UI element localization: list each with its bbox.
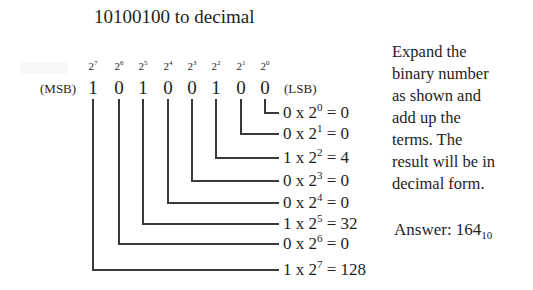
- answer-label: Answer:: [394, 220, 452, 239]
- expansion-term: 1 x 25 = 32: [283, 212, 358, 234]
- bit-digit: 0: [255, 77, 275, 99]
- bit-digit: 0: [158, 77, 178, 99]
- bit-digit: 1: [206, 77, 226, 99]
- connector-horizontal: [191, 180, 279, 182]
- answer: Answer: 16410: [394, 220, 492, 241]
- connector-horizontal: [240, 133, 279, 135]
- explanation-line: decimal form.: [392, 173, 532, 195]
- connector-horizontal: [215, 157, 279, 159]
- connector-vertical: [264, 99, 266, 113]
- connector-horizontal: [142, 223, 279, 225]
- expansion-term: 1 x 22 = 4: [283, 146, 349, 168]
- lsb-label: (LSB): [284, 81, 317, 97]
- power-label: 20: [255, 60, 275, 72]
- faint-smudge: [20, 62, 68, 74]
- explanation-text: Expand thebinary numberas shown andadd u…: [392, 41, 532, 195]
- connector-vertical: [240, 99, 242, 134]
- expansion-term: 0 x 24 = 0: [283, 191, 349, 213]
- expansion-term: 0 x 23 = 0: [283, 169, 349, 191]
- expansion-term: 0 x 21 = 0: [283, 122, 349, 144]
- connector-vertical: [167, 99, 169, 203]
- connector-vertical: [142, 99, 144, 224]
- connector-horizontal: [167, 202, 279, 204]
- explanation-line: result will be in: [392, 151, 532, 173]
- explanation-line: terms. The: [392, 129, 532, 151]
- power-label: 21: [231, 60, 251, 72]
- power-label: 22: [206, 60, 226, 72]
- bit-digit: 0: [109, 77, 129, 99]
- diagram-title: 10100100 to decimal: [94, 6, 254, 28]
- connector-vertical: [118, 99, 120, 244]
- explanation-line: binary number: [392, 63, 532, 85]
- bit-digit: 1: [83, 77, 103, 99]
- connector-horizontal: [264, 112, 279, 114]
- connector-vertical: [92, 99, 94, 270]
- answer-value: 164: [456, 220, 482, 239]
- msb-label: (MSB): [40, 81, 76, 97]
- expansion-term: 0 x 26 = 0: [283, 232, 349, 254]
- power-label: 25: [133, 60, 153, 72]
- connector-vertical: [215, 99, 217, 158]
- explanation-line: Expand the: [392, 41, 532, 63]
- power-label: 27: [83, 60, 103, 72]
- power-label: 24: [158, 60, 178, 72]
- expansion-term: 0 x 20 = 0: [283, 101, 349, 123]
- explanation-line: as shown and: [392, 85, 532, 107]
- bit-digit: 1: [133, 77, 153, 99]
- power-label: 26: [109, 60, 129, 72]
- bit-digit: 0: [182, 77, 202, 99]
- explanation-line: add up the: [392, 107, 532, 129]
- answer-base: 10: [481, 229, 492, 241]
- bit-digit: 0: [231, 77, 251, 99]
- connector-vertical: [191, 99, 193, 181]
- power-label: 23: [182, 60, 202, 72]
- connector-horizontal: [118, 243, 279, 245]
- expansion-term: 1 x 27 = 128: [283, 258, 366, 280]
- connector-horizontal: [92, 269, 279, 271]
